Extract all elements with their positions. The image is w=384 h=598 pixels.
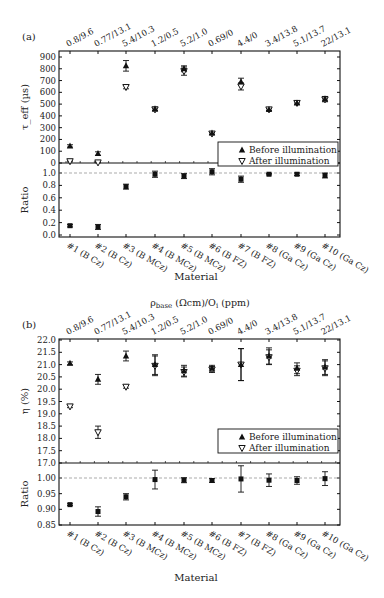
legend-after-label: After illumination	[248, 156, 330, 166]
ratio-marker	[68, 502, 73, 507]
y-tick-label: 0.4	[42, 205, 56, 215]
top-tick-label: 0.8/9.6	[64, 26, 95, 49]
ratio-axis-label: Ratio	[19, 481, 30, 508]
ratio-marker	[153, 477, 158, 482]
ratio-marker	[267, 478, 272, 483]
top-tick-label: 5.2/1.0	[178, 26, 209, 49]
title-part: (ppm)	[218, 297, 250, 308]
ratio-marker	[182, 174, 187, 179]
top-tick-label: 0.69/0	[206, 27, 235, 49]
y-tick-label: 400	[40, 111, 56, 121]
after-marker	[238, 84, 244, 90]
ratio-marker	[295, 172, 300, 177]
after-marker	[123, 85, 129, 91]
top-axis-title: ρbase (Ωcm)/Oi (ppm)	[150, 297, 249, 310]
y-tick-label: 1.00	[37, 473, 56, 483]
title-part: (Ωcm)/O	[172, 297, 216, 308]
top-tick-label: 0.8/9.6	[64, 314, 95, 337]
after-marker	[123, 384, 129, 390]
before-marker	[67, 360, 73, 366]
ratio-marker	[210, 169, 215, 174]
y-tick-label: 18.5	[37, 421, 56, 431]
y-tick-label: 0.8	[42, 180, 56, 190]
y-tick-label: 20.5	[37, 372, 56, 382]
y-tick-label: 0.2	[42, 218, 56, 228]
y-tick-label: 19.0	[37, 409, 56, 419]
legend: Before illuminationAfter illumination	[218, 429, 338, 453]
y-tick-label: 21.0	[37, 360, 56, 370]
y-axis-label: η (%)	[19, 388, 30, 415]
before-marker	[95, 150, 101, 156]
ratio-marker	[267, 172, 272, 177]
y-tick-label: 0.95	[37, 489, 56, 499]
figure: (a)0.8/9.60.77/13.15.4/10.31.2/0.55.2/1.…	[0, 0, 384, 598]
before-marker	[67, 142, 73, 148]
ratio-marker	[323, 476, 328, 481]
ratio-axis-label: Ratio	[19, 187, 30, 214]
ratio-marker	[182, 478, 187, 483]
y-tick-label: 700	[40, 76, 56, 86]
ratio-marker	[239, 476, 244, 481]
ratio-marker	[210, 478, 215, 483]
before-marker	[123, 62, 129, 68]
ratio-marker	[323, 173, 328, 178]
legend-after-label: After illumination	[248, 443, 330, 453]
ratio-marker	[295, 478, 300, 483]
top-tick-label: 0.69/0	[206, 315, 235, 337]
y-tick-label: 800	[40, 64, 56, 74]
panel-a: (a)0.8/9.60.77/13.15.4/10.31.2/0.55.2/1.…	[19, 21, 371, 282]
ratio-marker	[153, 172, 158, 177]
y-tick-label: 22.0	[37, 335, 56, 345]
panel-label: (b)	[22, 319, 36, 330]
y-tick-label: 21.5	[37, 347, 56, 357]
before-marker	[95, 376, 101, 382]
subscript: base	[156, 302, 172, 310]
y-tick-label: 20.0	[37, 384, 56, 394]
after-marker	[95, 430, 101, 436]
y-tick-label: 0.90	[37, 504, 56, 514]
y-tick-label: 18.0	[37, 433, 56, 443]
y-tick-label: 500	[40, 99, 56, 109]
ratio-marker	[68, 223, 73, 228]
top-tick-label: 4.4/0	[235, 318, 259, 337]
before-marker	[123, 352, 129, 358]
y-tick-label: 0.0	[42, 230, 56, 240]
after-marker	[67, 404, 73, 410]
y-tick-label: 200	[40, 134, 56, 144]
x-axis-label: Material	[174, 572, 217, 583]
legend: Before illuminationAfter illumination	[218, 142, 338, 166]
legend-before-label: Before illumination	[249, 145, 337, 155]
chart-canvas: (a)0.8/9.60.77/13.15.4/10.31.2/0.55.2/1.…	[0, 0, 384, 598]
panel-b: (b)0.8/9.60.77/13.15.4/10.31.2/0.55.2/1.…	[19, 309, 371, 583]
y-tick-label: 19.5	[37, 397, 56, 407]
ratio-marker	[239, 177, 244, 182]
panel-label: (a)	[22, 31, 36, 42]
ratio-marker	[124, 494, 129, 499]
ratio-marker	[96, 509, 101, 514]
y-tick-label: 100	[40, 146, 56, 156]
y-tick-label: 900	[40, 52, 56, 62]
ratio-marker	[96, 224, 101, 229]
y-tick-label: 600	[40, 87, 56, 97]
top-tick-label: 5.2/1.0	[178, 314, 209, 337]
y-tick-label: 300	[40, 123, 56, 133]
y-tick-label: 17.5	[37, 446, 56, 456]
y-tick-label: 0.6	[42, 193, 56, 203]
y-tick-label: 0	[51, 158, 56, 168]
top-tick-label: 4.4/0	[235, 30, 259, 49]
x-axis-label: Material	[174, 271, 217, 282]
y-tick-label: 0.85	[37, 520, 56, 530]
y-axis-label: τ_eff (µs)	[19, 84, 31, 130]
before-marker	[238, 78, 244, 84]
legend-before-label: Before illumination	[249, 432, 337, 442]
y-tick-label: 1.0	[42, 168, 56, 178]
ratio-marker	[124, 184, 129, 189]
y-tick-label: 17.0	[37, 458, 56, 468]
